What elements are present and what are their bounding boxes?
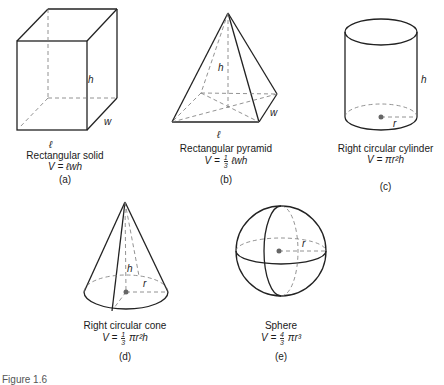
formula: V = ℓwh bbox=[0, 161, 130, 172]
figure-tag: (d) bbox=[60, 351, 190, 362]
shape-name: Right circular cone bbox=[60, 320, 190, 331]
formula: V = 13 πr²h bbox=[60, 331, 190, 346]
rectangular-pyramid-shape bbox=[172, 13, 277, 122]
figure-caption: Figure 1.6 bbox=[2, 374, 47, 385]
figure-tag: (e) bbox=[236, 351, 326, 362]
label-rectangular-pyramid: Rectangular pyramid V = 13 ℓwh (b) bbox=[160, 143, 292, 185]
dim-h-d: h bbox=[127, 263, 133, 274]
shape-name: Right circular cylinder bbox=[327, 143, 444, 154]
shape-name: Rectangular pyramid bbox=[160, 143, 292, 154]
rectangular-solid-shape bbox=[17, 9, 117, 130]
formula: V = πr²h bbox=[327, 154, 444, 165]
label-right-circular-cone: Right circular cone V = 13 πr²h (d) bbox=[60, 320, 190, 362]
dim-r-c: r bbox=[393, 118, 396, 129]
dim-w-b: w bbox=[270, 107, 277, 118]
label-sphere: Sphere V = 43 πr³ (e) bbox=[236, 320, 326, 362]
dim-l-b: ℓ bbox=[217, 129, 220, 140]
figure-tag: (a) bbox=[0, 174, 130, 185]
dim-w-a: w bbox=[104, 116, 111, 127]
sphere-shape bbox=[236, 206, 326, 296]
figure-tag: (b) bbox=[160, 174, 292, 185]
shape-name: Rectangular solid bbox=[0, 150, 130, 161]
label-rectangular-solid: Rectangular solid V = ℓwh (a) bbox=[0, 150, 130, 185]
label-right-circular-cylinder: Right circular cylinder V = πr²h (c) bbox=[327, 143, 444, 192]
right-circular-cylinder-shape bbox=[345, 19, 417, 130]
formula: V = 43 πr³ bbox=[236, 331, 326, 346]
dim-h-b: h bbox=[218, 62, 224, 73]
dim-r-d: r bbox=[143, 278, 146, 289]
dim-h-c: h bbox=[421, 74, 427, 85]
formula: V = 13 ℓwh bbox=[160, 154, 292, 169]
figure-tag: (c) bbox=[327, 181, 444, 192]
dim-h-a: h bbox=[88, 74, 94, 85]
right-circular-cone-shape bbox=[84, 202, 168, 311]
dim-r-e: r bbox=[302, 238, 305, 249]
dim-l-a: ℓ bbox=[49, 139, 52, 150]
shape-name: Sphere bbox=[236, 320, 326, 331]
